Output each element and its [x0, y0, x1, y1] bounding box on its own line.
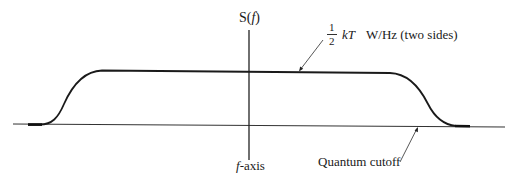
level-units: W/Hz (two sides) [366, 27, 458, 42]
kt-symbol: kT [342, 27, 356, 42]
fraction-numerator: 1 [329, 21, 335, 33]
y-axis-label: S(f) [239, 10, 260, 26]
cutoff-leader-line [400, 129, 417, 163]
fraction-denominator: 2 [329, 35, 335, 47]
level-label: 1 2 kT W/Hz (two sides) [327, 21, 458, 47]
x-axis-label: f-axis [236, 158, 265, 173]
spectral-density-diagram: S(f) 1 2 kT W/Hz (two sides) f-axis Quan… [0, 0, 513, 182]
f-axis-line [13, 124, 505, 127]
level-leader-line [300, 40, 323, 70]
cutoff-label: Quantum cutoff [318, 154, 401, 169]
